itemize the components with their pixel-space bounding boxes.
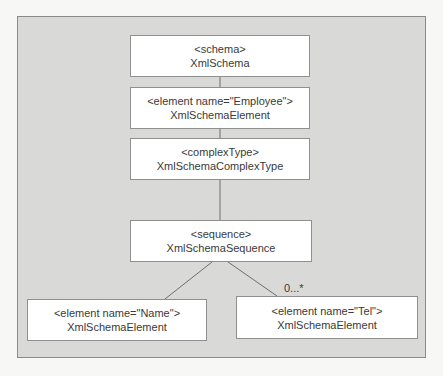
multiplicity-label: 0...*: [284, 282, 304, 294]
node-employee: <element name="Employee"> XmlSchemaEleme…: [130, 87, 310, 129]
node-sequence: <sequence> XmlSchemaSequence: [130, 220, 312, 262]
node-type: XmlSchemaElement: [277, 318, 377, 332]
node-type: XmlSchemaElement: [67, 320, 167, 334]
node-name: <element name="Name"> XmlSchemaElement: [27, 299, 207, 341]
node-tel: <element name="Tel"> XmlSchemaElement: [236, 296, 418, 339]
node-type: XmlSchemaComplexType: [157, 159, 284, 173]
node-tag: <complexType>: [181, 145, 259, 159]
node-complextype: <complexType> XmlSchemaComplexType: [130, 138, 310, 180]
node-tag: <element name="Tel">: [272, 304, 383, 318]
node-tag: <element name="Employee">: [147, 94, 293, 108]
node-tag: <element name="Name">: [54, 306, 180, 320]
node-tag: <sequence>: [191, 227, 252, 241]
node-type: XmlSchemaSequence: [167, 241, 276, 255]
node-type: XmlSchema: [190, 56, 249, 70]
node-type: XmlSchemaElement: [170, 108, 270, 122]
node-schema: <schema> XmlSchema: [130, 35, 310, 77]
node-tag: <schema>: [194, 42, 245, 56]
edge-sequence-tel: [228, 262, 277, 296]
edge-sequence-name: [165, 262, 212, 299]
